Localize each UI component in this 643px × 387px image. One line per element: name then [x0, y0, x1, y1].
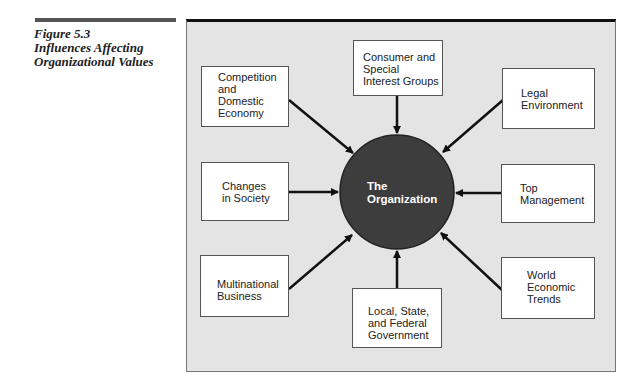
box-competition-label: Competition and Domestic Economy: [218, 71, 288, 119]
box-society: Changes in Society: [201, 162, 289, 221]
box-legal-label: Legal Environment: [521, 87, 594, 111]
box-top-management: Top Management: [501, 164, 595, 223]
arrow-world: [441, 233, 502, 290]
box-top-management-label: Top Management: [520, 182, 594, 206]
box-consumer-label: Consumer and Special Interest Groups: [363, 51, 442, 87]
arrow-legal: [443, 100, 503, 152]
box-world: World Economic Trends: [501, 257, 595, 319]
arrow-multinational: [289, 235, 352, 289]
box-government: Local, State, and Federal Government: [352, 288, 442, 348]
box-consumer: Consumer and Special Interest Groups: [353, 40, 443, 96]
box-competition: Competition and Domestic Economy: [201, 66, 289, 127]
box-government-label: Local, State, and Federal Government: [368, 305, 441, 341]
box-legal: Legal Environment: [502, 68, 595, 129]
box-multinational-label: Multinational Business: [217, 278, 288, 302]
box-multinational: Multinational Business: [200, 255, 289, 317]
arrow-competition: [289, 100, 353, 153]
organization-label: The Organization: [367, 180, 437, 206]
box-society-label: Changes in Society: [222, 180, 288, 204]
box-world-label: World Economic Trends: [527, 269, 594, 305]
